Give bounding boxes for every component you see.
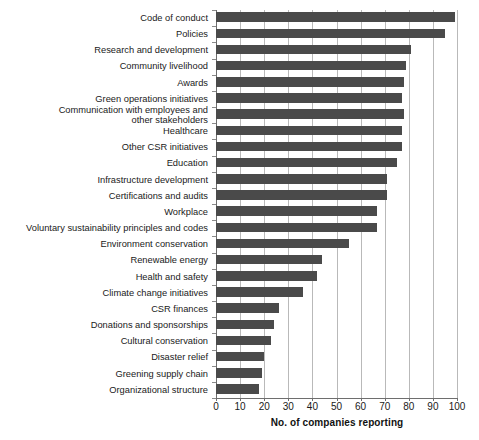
category-label: Research and development [0, 45, 212, 55]
category-label: Green operations initiatives [0, 94, 212, 104]
category-label: CSR finances [0, 304, 212, 314]
category-label: Climate change initiatives [0, 288, 212, 298]
y-tick-mark [212, 333, 216, 334]
bar-row [216, 172, 457, 187]
bar-row [216, 253, 457, 268]
bar [216, 158, 397, 168]
bar-row [216, 204, 457, 219]
bar [216, 206, 377, 216]
y-tick-mark [212, 26, 216, 27]
category-label: Code of conduct [0, 13, 212, 23]
bar-row [216, 269, 457, 284]
y-tick-mark [212, 107, 216, 108]
y-tick-mark [212, 123, 216, 124]
category-label: Infrastructure development [0, 175, 212, 185]
bar [216, 93, 402, 103]
bar [216, 142, 402, 152]
x-tick-mark-20 [264, 398, 265, 401]
bar [216, 174, 387, 184]
bar-row [216, 156, 457, 171]
plot-area [216, 10, 457, 398]
bar-row [216, 333, 457, 348]
x-tick-mark-50 [337, 398, 338, 401]
y-tick-mark [212, 59, 216, 60]
y-tick-mark [212, 269, 216, 270]
bar-row [216, 139, 457, 154]
x-axis-title: No. of companies reporting [216, 417, 458, 428]
bar-row [216, 366, 457, 381]
x-axis-tick-labels: 0102030405060708090100 [0, 401, 479, 415]
bar [216, 29, 445, 39]
bar-row [216, 188, 457, 203]
x-tick-mark-0 [216, 398, 217, 401]
gridline-100 [457, 10, 458, 398]
bar [216, 61, 406, 71]
category-label: Workplace [0, 207, 212, 217]
category-label: Health and safety [0, 272, 212, 282]
category-label: Renewable energy [0, 255, 212, 265]
bar-row [216, 382, 457, 397]
y-tick-mark [212, 139, 216, 140]
bar [216, 223, 377, 233]
category-label: Healthcare [0, 126, 212, 136]
bar [216, 255, 322, 265]
bar [216, 287, 303, 297]
bar-row [216, 59, 457, 74]
x-tick-mark-80 [409, 398, 410, 401]
y-tick-mark [212, 317, 216, 318]
y-tick-mark [212, 172, 216, 173]
bar [216, 384, 259, 394]
bar-row [216, 107, 457, 122]
category-label: Community livelihood [0, 61, 212, 71]
category-label: Other CSR initiatives [0, 142, 212, 152]
y-tick-mark [212, 188, 216, 189]
x-tick-mark-70 [385, 398, 386, 401]
y-tick-mark [212, 253, 216, 254]
bar [216, 190, 387, 200]
bar-row [216, 26, 457, 41]
bar-row [216, 350, 457, 365]
bar [216, 45, 411, 55]
category-label: Disaster relief [0, 352, 212, 362]
category-label: Greening supply chain [0, 369, 212, 379]
bar [216, 239, 349, 249]
category-label: Donations and sponsorships [0, 320, 212, 330]
category-label: Certifications and audits [0, 191, 212, 201]
bar-row [216, 75, 457, 90]
category-label: Communication with employees and other s… [0, 105, 212, 125]
category-label: Education [0, 158, 212, 168]
category-label: Cultural conservation [0, 336, 212, 346]
y-tick-mark [212, 220, 216, 221]
category-label: Voluntary sustainability principles and … [0, 223, 212, 233]
x-tick-mark-90 [433, 398, 434, 401]
bar-row [216, 301, 457, 316]
bar [216, 77, 404, 87]
bar-row [216, 10, 457, 25]
x-tick-mark-10 [240, 398, 241, 401]
x-tick-mark-100 [457, 398, 458, 401]
y-tick-mark [212, 42, 216, 43]
y-tick-mark [212, 285, 216, 286]
x-tick-mark-30 [288, 398, 289, 401]
bar-row [216, 220, 457, 235]
y-tick-mark [212, 301, 216, 302]
bar-row [216, 42, 457, 57]
category-label: Environment conservation [0, 239, 212, 249]
y-tick-mark [212, 350, 216, 351]
category-axis-labels: Code of conductPoliciesResearch and deve… [0, 10, 212, 398]
bar [216, 126, 402, 136]
bar-chart: Code of conductPoliciesResearch and deve… [0, 0, 479, 440]
category-label: Organizational structure [0, 385, 212, 395]
y-tick-mark [212, 382, 216, 383]
x-tick-mark-40 [312, 398, 313, 401]
bar [216, 303, 279, 313]
x-tick-mark-60 [361, 398, 362, 401]
bar [216, 12, 455, 22]
y-tick-mark [212, 75, 216, 76]
y-tick-mark [212, 91, 216, 92]
bar [216, 336, 271, 346]
bar [216, 109, 404, 119]
y-tick-mark [212, 204, 216, 205]
bar-row [216, 236, 457, 251]
bar [216, 368, 262, 378]
